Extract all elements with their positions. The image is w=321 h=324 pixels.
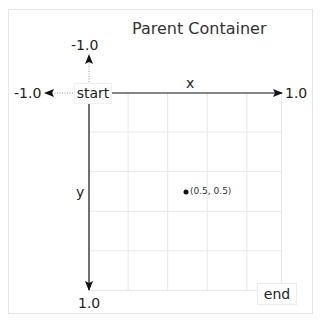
y-axis-label: y (76, 184, 84, 200)
end-label: end (257, 283, 297, 305)
y-min-label: -1.0 (71, 37, 98, 53)
y-max-label: 1.0 (78, 295, 100, 311)
start-label: start (74, 83, 112, 104)
point-label: (0.5, 0.5) (190, 186, 231, 196)
axes-arrows (0, 0, 321, 324)
x-max-label: 1.0 (285, 85, 307, 101)
x-min-label: -1.0 (14, 85, 41, 101)
point-dot (184, 190, 189, 195)
x-axis-label: x (186, 75, 194, 91)
